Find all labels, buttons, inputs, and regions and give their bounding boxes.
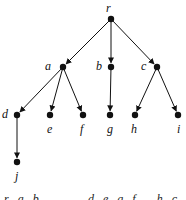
edge-c-i <box>157 67 176 111</box>
edge-c-h <box>137 67 157 111</box>
node-label-r: r <box>106 2 111 14</box>
node-a <box>60 64 66 70</box>
edge-a-f <box>63 67 81 111</box>
edge-r-c <box>111 19 154 64</box>
tree-nodes <box>14 16 181 165</box>
node-i <box>175 112 181 118</box>
node-label-j: j <box>15 170 18 182</box>
node-j <box>14 159 20 165</box>
bottom-text-left: r a b <box>4 192 42 200</box>
node-label-e: e <box>47 123 52 135</box>
edge-r-a <box>66 19 111 64</box>
node-label-f: f <box>80 123 83 135</box>
node-e <box>47 112 53 118</box>
bottom-text-right: d e g f h c i <box>88 192 186 200</box>
node-d <box>14 112 20 118</box>
node-f <box>80 112 86 118</box>
node-label-h: h <box>131 123 137 135</box>
node-r <box>108 16 114 22</box>
node-label-c: c <box>141 60 146 72</box>
tree-edges <box>17 19 176 158</box>
node-b <box>108 64 114 70</box>
tree-diagram <box>0 0 186 200</box>
node-label-d: d <box>2 108 8 120</box>
edge-b-g <box>110 67 111 111</box>
node-g <box>107 112 113 118</box>
node-label-g: g <box>107 123 113 135</box>
node-h <box>132 112 138 118</box>
node-c <box>154 64 160 70</box>
node-label-a: a <box>45 60 51 72</box>
node-label-b: b <box>96 60 102 72</box>
node-label-i: i <box>177 123 180 135</box>
